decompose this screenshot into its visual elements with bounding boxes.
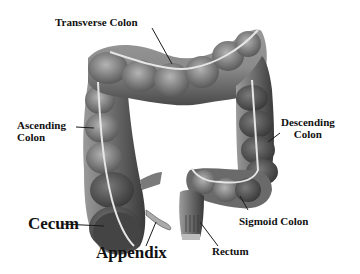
mesentery-stub [140, 172, 162, 190]
label-rectum: Rectum [212, 246, 249, 257]
label-cecum: Cecum [28, 215, 79, 232]
label-descending-colon: Descending Colon [281, 116, 335, 140]
rectum [179, 190, 204, 240]
colon-diagram: Transverse Colon Ascending Colon Descend… [0, 0, 360, 274]
label-descending-colon-line1: Descending [281, 116, 335, 128]
label-ascending-colon-line2: Colon [17, 131, 66, 143]
label-transverse-colon: Transverse Colon [55, 17, 138, 28]
label-sigmoid-colon: Sigmoid Colon [239, 216, 308, 227]
label-ascending-colon-line1: Ascending [17, 119, 66, 131]
appendix [146, 210, 171, 230]
label-ascending-colon: Ascending Colon [17, 119, 66, 143]
label-descending-colon-line2: Colon [281, 128, 335, 140]
leader-rectum [200, 222, 218, 246]
label-appendix: Appendix [96, 244, 167, 261]
